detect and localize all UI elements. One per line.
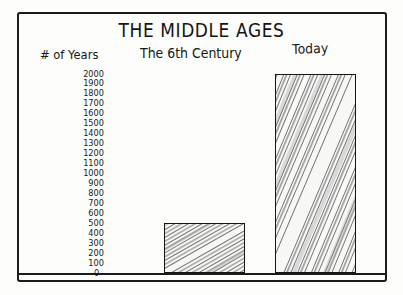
plot-area [0,0,403,295]
comic-panel: THE MIDDLE AGES # of Years The 6th Centu… [0,0,403,295]
x-axis-baseline [19,273,385,275]
pencil-scribble-fill [275,74,356,273]
bar-today [275,74,356,273]
bar-6th-century [164,223,245,273]
pencil-scribble-fill [164,223,245,273]
